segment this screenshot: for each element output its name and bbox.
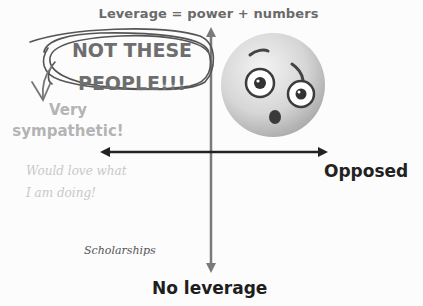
scribble-arrow <box>32 66 52 100</box>
callout-text: NOT THESE PEOPLE!!! <box>64 34 200 100</box>
left-axis-label: Very sympathetic! <box>8 100 128 142</box>
arrow-left-icon <box>100 147 110 157</box>
right-axis-label: Opposed <box>324 161 408 181</box>
callout-line-2: PEOPLE!!! <box>64 67 200 100</box>
arrow-right-icon <box>318 147 328 157</box>
callout-line-1: NOT THESE <box>64 34 200 67</box>
diagram-title: Leverage = power + numbers <box>0 6 420 21</box>
arrow-up-icon <box>206 27 216 37</box>
diagram-canvas: Leverage = power + numbers NOT THESE PEO… <box>0 0 423 306</box>
bottom-axis-label: No leverage <box>152 278 267 298</box>
handwritten-line-1: Would love what <box>26 160 127 182</box>
handwritten-line-2: I am doing! <box>26 182 127 204</box>
handwritten-note: Would love what I am doing! <box>26 160 127 204</box>
scholarships-label: Scholarships <box>84 244 156 257</box>
arrow-down-icon <box>206 263 216 273</box>
flushed-face-icon <box>221 33 325 137</box>
horizontal-axis <box>100 147 328 157</box>
left-label-line-1: Very <box>8 100 128 121</box>
left-label-line-2: sympathetic! <box>8 121 128 142</box>
